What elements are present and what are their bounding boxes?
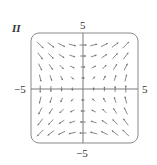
arrowhead-icon [83, 77, 85, 79]
arrowhead-icon [93, 87, 95, 89]
arrowhead-icon [39, 91, 41, 93]
y-tick-bottom: −5 [76, 148, 88, 159]
arrowhead-icon [50, 90, 52, 92]
arrowhead-icon [80, 121, 82, 123]
x-tick-right: 5 [142, 84, 148, 95]
arrowhead-icon [81, 110, 83, 112]
arrowhead-icon [114, 86, 116, 88]
y-tick-top: 5 [80, 20, 86, 31]
x-tick-left: −5 [14, 84, 26, 95]
arrowhead-icon [84, 55, 86, 57]
arrowhead-icon [81, 99, 83, 101]
arrowhead-icon [125, 86, 127, 88]
panel-label: II [12, 23, 21, 34]
arrowhead-icon [80, 132, 82, 134]
arrowhead-icon [103, 87, 105, 89]
arrowhead-icon [61, 90, 63, 92]
arrowhead-icon [71, 89, 73, 91]
plot-frame [31, 33, 138, 143]
arrowhead-icon [84, 66, 86, 68]
arrowhead-icon [85, 44, 87, 46]
